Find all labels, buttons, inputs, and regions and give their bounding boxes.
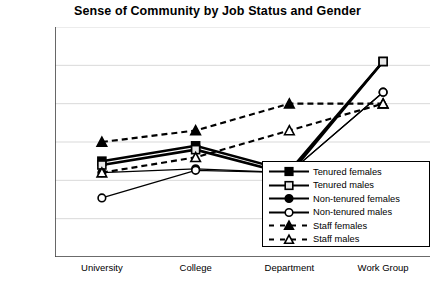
data-point	[192, 167, 200, 175]
legend-label: Staff males	[313, 234, 359, 244]
legend-marker-glyph	[285, 221, 294, 229]
legend-marker-glyph	[285, 168, 293, 176]
legend-item: Non-tenured males	[263, 206, 429, 220]
legend-marker-glyph	[285, 235, 294, 243]
legend-marker	[267, 165, 311, 178]
legend-label: Non-tenured females	[313, 194, 400, 204]
legend-item: Non-tenured females	[263, 192, 429, 206]
x-tick-label: Work Group	[358, 262, 409, 273]
legend-rows: Tenured femalesTenured malesNon-tenured …	[263, 165, 429, 246]
data-point	[379, 88, 387, 96]
legend-label: Non-tenured males	[313, 207, 392, 217]
chart-legend: Tenured femalesTenured malesNon-tenured …	[262, 161, 430, 247]
legend-item: Tenured males	[263, 179, 429, 193]
chart-container: Sense of Community by Job Status and Gen…	[0, 0, 435, 289]
legend-item: Staff males	[263, 233, 429, 247]
x-tick-label: University	[81, 262, 123, 273]
x-tick-label: Department	[265, 262, 315, 273]
legend-marker	[267, 179, 311, 192]
legend-marker	[267, 233, 311, 246]
x-tick-label: College	[180, 262, 212, 273]
legend-marker-glyph	[285, 181, 293, 189]
legend-marker-glyph	[285, 208, 293, 216]
legend-item: Tenured females	[263, 165, 429, 179]
legend-marker	[267, 219, 311, 232]
legend-label: Tenured males	[313, 180, 374, 190]
legend-marker-glyph	[285, 195, 293, 203]
legend-item: Staff females	[263, 219, 429, 233]
legend-marker	[267, 192, 311, 205]
legend-label: Tenured females	[313, 167, 382, 177]
legend-marker	[267, 206, 311, 219]
data-point	[98, 194, 106, 202]
legend-label: Staff females	[313, 221, 367, 231]
data-point	[379, 58, 387, 66]
